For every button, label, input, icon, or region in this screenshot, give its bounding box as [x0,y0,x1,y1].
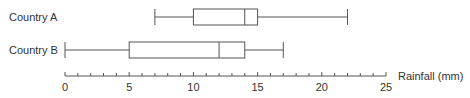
rainfall-boxplot-chart: Country ACountry B 0510152025 Rainfall (… [0,0,470,98]
tick-label: 20 [316,81,328,93]
box-country-a: Country A [9,9,347,25]
tick-label: 5 [126,81,132,93]
tick-label: 0 [62,81,68,93]
tick-label: 15 [251,81,263,93]
boxes-group: Country ACountry B [9,9,347,58]
boxplot-svg: Country ACountry B 0510152025 Rainfall (… [0,0,470,98]
tick-label: 25 [380,81,392,93]
category-label: Country A [9,11,58,23]
iqr-box [129,42,245,58]
tick-label: 10 [187,81,199,93]
iqr-box [193,9,257,25]
x-axis-label: Rainfall (mm) [398,70,463,82]
category-label: Country B [9,44,58,56]
box-country-b: Country B [9,42,283,58]
x-axis: 0510152025 [62,72,392,93]
